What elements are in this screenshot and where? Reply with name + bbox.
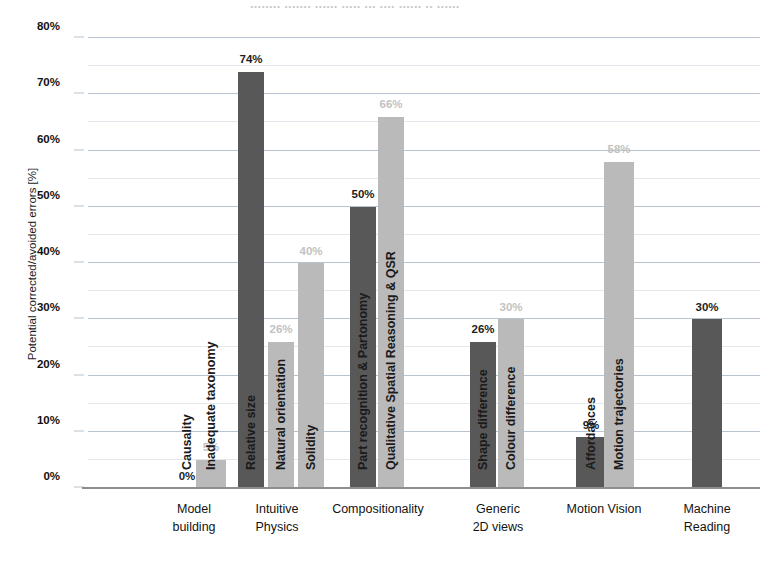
y-axis-tick-mark [74, 430, 84, 431]
y-axis-tick-label: 80% [14, 20, 60, 32]
y-axis-tick-mark [74, 37, 84, 38]
bar-value-label: 26% [471, 324, 494, 336]
bar-series-label: Shape difference [477, 369, 490, 470]
bar-value-label: 40% [299, 246, 322, 258]
gridline-minor [88, 121, 760, 122]
y-axis-tick-label: 70% [14, 76, 60, 88]
bar-value-label: 74% [239, 54, 262, 66]
y-axis-tick-mark [74, 149, 84, 150]
gridline-minor [88, 403, 760, 404]
gridline-major [88, 37, 760, 38]
bar-series-label: Causality [181, 414, 194, 470]
y-axis-tick-mark [74, 374, 84, 375]
bar-value-label: 30% [499, 302, 522, 314]
gridline-minor [88, 290, 760, 291]
x-axis-line [82, 487, 760, 489]
x-axis-category-label: Motion Vision [567, 500, 642, 518]
y-axis-tick-mark [74, 262, 84, 263]
bar-series-label: Affordances [585, 397, 598, 470]
gridline-minor [88, 65, 760, 66]
y-axis-tick-mark [74, 93, 84, 94]
bar-series-label: Motion trajectories [613, 358, 626, 470]
y-axis-tick-mark [74, 318, 84, 319]
bar-chart: Potential corrected/avoided errors [%] 0… [0, 0, 782, 579]
bar-series-label: Solidity [305, 424, 318, 469]
x-axis-category-label: IntuitivePhysics [255, 500, 298, 536]
gridline-major [88, 93, 760, 94]
gridline-major [88, 318, 760, 319]
bar-value-label: 50% [351, 189, 374, 201]
y-axis-tick-label: 40% [14, 245, 60, 257]
x-axis-category-label: Modelbuilding [172, 500, 215, 536]
y-axis-tick-label: 20% [14, 358, 60, 370]
bar-series-label: Relative size [245, 394, 258, 469]
bar-value-label: 30% [695, 302, 718, 314]
x-axis-category-label: MachineReading [683, 500, 730, 536]
x-axis-category-label: Compositionality [332, 500, 424, 518]
x-axis-category-label: Generic2D views [473, 500, 524, 536]
gridline-minor [88, 178, 760, 179]
gridline-major [88, 150, 760, 151]
y-axis-title: Potential corrected/avoided errors [%] [26, 64, 38, 464]
y-axis-tick-label: 50% [14, 189, 60, 201]
gridline-major [88, 262, 760, 263]
plot-area: 0%10%20%30%40%50%60%70%80% 0%Causality5%… [88, 38, 760, 488]
gridline-minor [88, 346, 760, 347]
gridline-minor [88, 234, 760, 235]
bar-value-label: 0% [179, 471, 196, 483]
bar-value-label: 26% [269, 324, 292, 336]
bar-series-label: Inadequate taxonomy [205, 341, 218, 470]
y-axis-tick-label: 10% [14, 414, 60, 426]
y-axis-tick-label: 60% [14, 133, 60, 145]
bar-value-label: 66% [379, 99, 402, 111]
bar-series-label: Colour difference [505, 366, 518, 470]
gridline-major [88, 375, 760, 376]
bar-value-label: 58% [607, 144, 630, 156]
y-axis-tick-label: 0% [14, 470, 60, 482]
bar-series-label: Part recognition & Partonomy [357, 292, 370, 469]
gridline-major [88, 206, 760, 207]
y-axis-tick-mark [74, 205, 84, 206]
y-axis-tick-label: 30% [14, 301, 60, 313]
bar-series-label: Qualitative Spatial Reasoning & QSR [385, 251, 398, 470]
bar [692, 319, 722, 488]
bar-series-label: Natural orientation [275, 358, 288, 469]
